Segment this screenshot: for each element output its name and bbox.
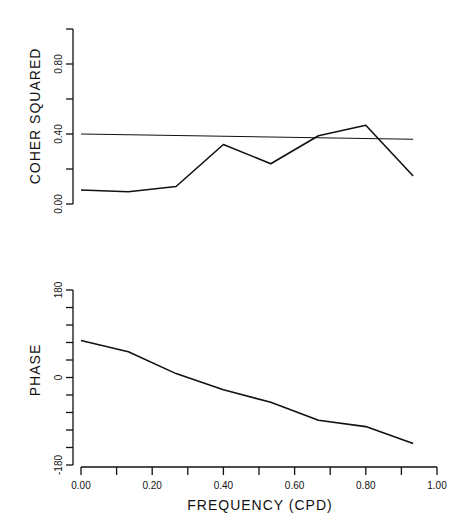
phase-line [81, 341, 413, 444]
x-tick-label: 0.00 [71, 480, 91, 491]
x-tick-label: 1.00 [427, 480, 447, 491]
y-tick-label: 0.40 [53, 124, 64, 144]
phase-panel: -18001800.000.200.400.600.801.00 [53, 281, 447, 491]
x-tick-label: 0.60 [285, 480, 305, 491]
x-tick-label: 0.80 [356, 480, 376, 491]
significance-line [81, 134, 413, 139]
x-tick-label: 0.40 [214, 480, 234, 491]
y-tick-label: 180 [53, 281, 64, 298]
coherence-y-axis-title: COHER SQUARED [27, 48, 43, 185]
x-tick-label: 0.20 [142, 480, 162, 491]
y-tick-label: -180 [53, 455, 64, 475]
y-tick-label: 0.00 [53, 194, 64, 214]
phase-y-axis-title: PHASE [27, 344, 43, 396]
y-tick-label: 0.80 [53, 54, 64, 74]
y-tick-label: 0 [53, 374, 64, 380]
coherence-panel: 0.000.400.80 [53, 29, 413, 214]
x-axis-title: FREQUENCY (CPD) [187, 497, 332, 513]
coherence-phase-chart: 0.000.400.80 -18001800.000.200.400.600.8… [0, 0, 463, 521]
